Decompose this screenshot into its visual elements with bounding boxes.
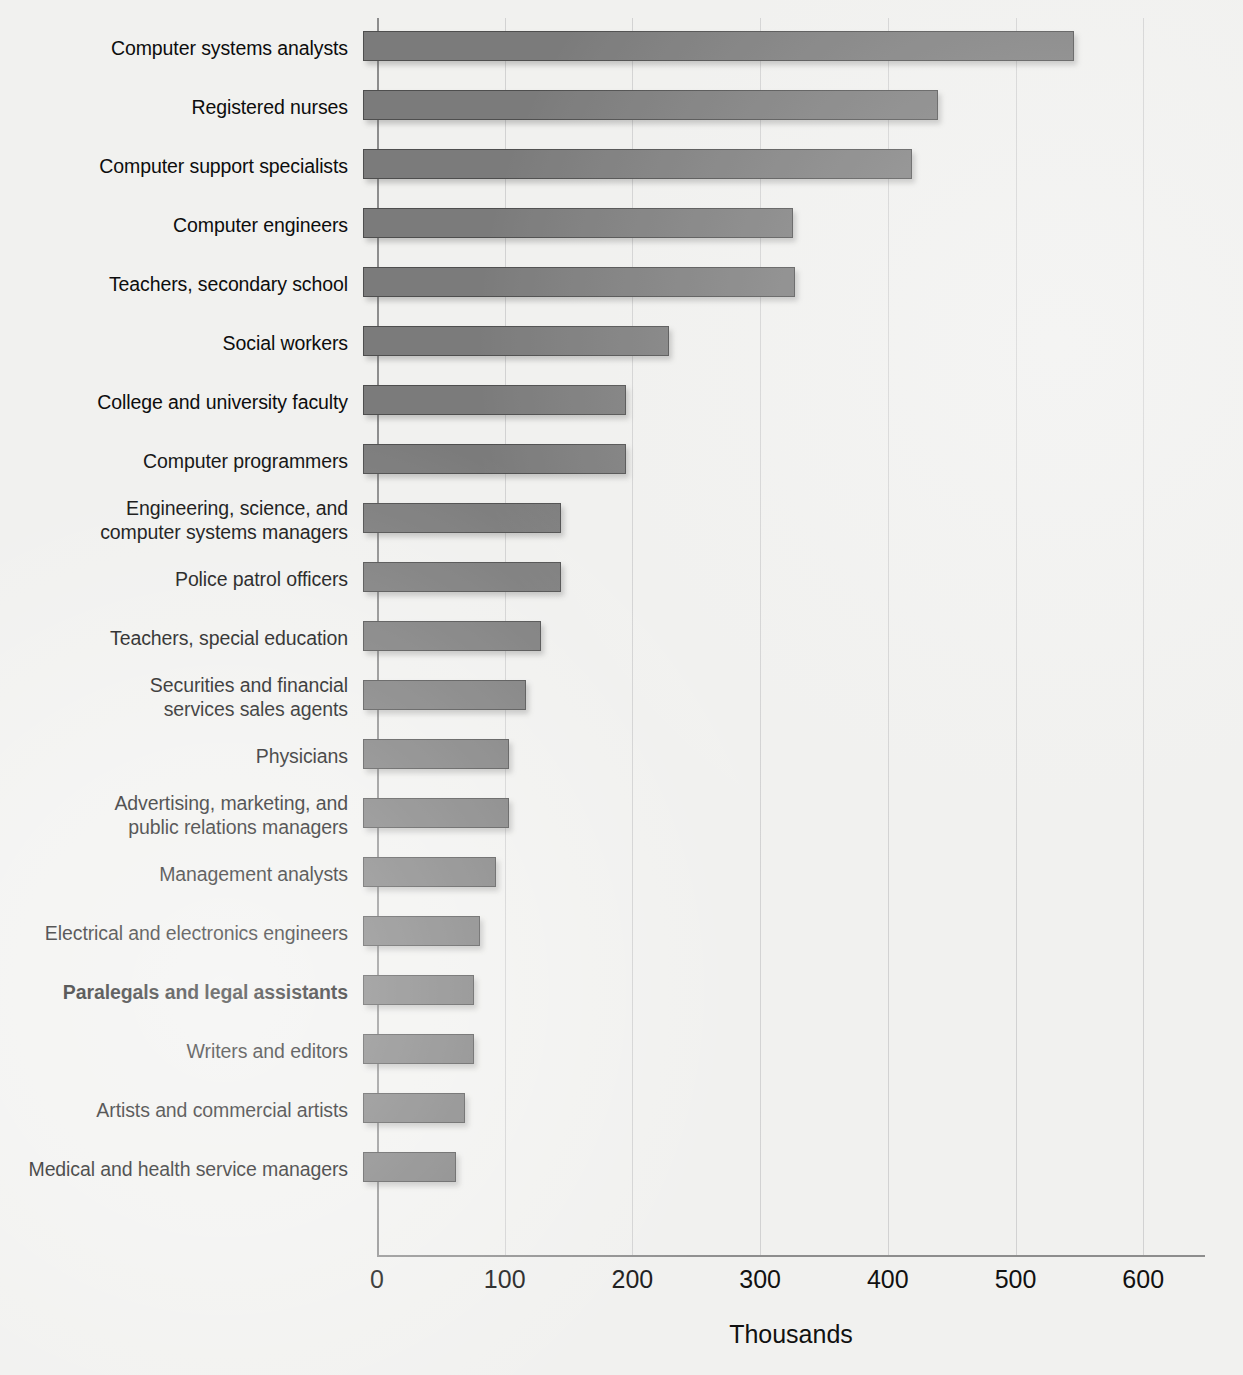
bar <box>363 1093 465 1123</box>
category-label: Computer support specialists <box>0 154 362 178</box>
category-label: Registered nurses <box>0 95 362 119</box>
bar-track <box>362 195 1243 254</box>
bar-row: Electrical and electronics engineers <box>0 903 1243 962</box>
bar <box>363 739 509 769</box>
x-tick-label: 100 <box>484 1262 526 1296</box>
bar-row: Computer programmers <box>0 431 1243 490</box>
x-tick-label: 500 <box>995 1262 1037 1296</box>
category-label: Writers and editors <box>0 1039 362 1063</box>
category-label: Teachers, secondary school <box>0 272 362 296</box>
bar-track <box>362 962 1243 1021</box>
bar-chart: Computer systems analystsRegistered nurs… <box>0 0 1243 1375</box>
bar <box>363 562 561 592</box>
bar <box>363 857 496 887</box>
x-tick-label: 200 <box>612 1262 654 1296</box>
bar-row: Computer engineers <box>0 195 1243 254</box>
bar-row: Police patrol officers <box>0 549 1243 608</box>
bar-track <box>362 608 1243 667</box>
bar <box>363 1152 456 1182</box>
bar <box>363 503 561 533</box>
bar-row: Social workers <box>0 313 1243 372</box>
bar-track <box>362 1021 1243 1080</box>
category-label: Social workers <box>0 331 362 355</box>
bar-track <box>362 313 1243 372</box>
bar-row: Medical and health service managers <box>0 1139 1243 1198</box>
category-label: Computer systems analysts <box>0 36 362 60</box>
bar <box>363 621 541 651</box>
bar <box>363 149 912 179</box>
bar-track <box>362 726 1243 785</box>
bar <box>363 916 480 946</box>
bar-row: Registered nurses <box>0 77 1243 136</box>
bar <box>363 385 626 415</box>
category-label: Engineering, science, and computer syste… <box>0 496 362 544</box>
bar <box>363 444 626 474</box>
bar-track <box>362 254 1243 313</box>
category-label: Computer engineers <box>0 213 362 237</box>
bar-track <box>362 1139 1243 1198</box>
category-label: Computer programmers <box>0 449 362 473</box>
bar-track <box>362 1080 1243 1139</box>
bar-row: Computer systems analysts <box>0 18 1243 77</box>
x-axis-title: Thousands <box>377 1320 1205 1349</box>
bar-track <box>362 549 1243 608</box>
x-axis-ticks: 0100200300400500600 <box>0 1262 1243 1302</box>
category-label: Police patrol officers <box>0 567 362 591</box>
bar <box>363 90 938 120</box>
category-label: Securities and financial services sales … <box>0 673 362 721</box>
bar-track <box>362 667 1243 726</box>
bar-row: Artists and commercial artists <box>0 1080 1243 1139</box>
bar <box>363 208 793 238</box>
bar-row: College and university faculty <box>0 372 1243 431</box>
bar <box>363 267 795 297</box>
bar-row: Physicians <box>0 726 1243 785</box>
bar-track <box>362 844 1243 903</box>
x-tick-label: 0 <box>370 1262 384 1296</box>
x-tick-label: 600 <box>1122 1262 1164 1296</box>
x-tick-label: 400 <box>867 1262 909 1296</box>
bar <box>363 680 526 710</box>
bar-track <box>362 77 1243 136</box>
bar-rows: Computer systems analystsRegistered nurs… <box>0 18 1243 1255</box>
bar-track <box>362 136 1243 195</box>
category-label: Artists and commercial artists <box>0 1098 362 1122</box>
bar-row: Engineering, science, and computer syste… <box>0 490 1243 549</box>
category-label: Paralegals and legal assistants <box>0 980 362 1004</box>
bar-track <box>362 431 1243 490</box>
bar-row: Management analysts <box>0 844 1243 903</box>
bar <box>363 1034 474 1064</box>
bar <box>363 31 1074 61</box>
category-label: Electrical and electronics engineers <box>0 921 362 945</box>
bar-track <box>362 490 1243 549</box>
category-label: Management analysts <box>0 862 362 886</box>
bar-row: Paralegals and legal assistants <box>0 962 1243 1021</box>
category-label: College and university faculty <box>0 390 362 414</box>
bar-row: Writers and editors <box>0 1021 1243 1080</box>
bar-row: Teachers, special education <box>0 608 1243 667</box>
bar-track <box>362 785 1243 844</box>
x-axis-line <box>377 1255 1205 1257</box>
category-label: Teachers, special education <box>0 626 362 650</box>
bar-track <box>362 903 1243 962</box>
bar <box>363 975 474 1005</box>
bar-row: Teachers, secondary school <box>0 254 1243 313</box>
bar-track <box>362 372 1243 431</box>
bar-row: Advertising, marketing, and public relat… <box>0 785 1243 844</box>
category-label: Advertising, marketing, and public relat… <box>0 791 362 839</box>
bar-row: Securities and financial services sales … <box>0 667 1243 726</box>
bar-track <box>362 18 1243 77</box>
bar-row: Computer support specialists <box>0 136 1243 195</box>
category-label: Physicians <box>0 744 362 768</box>
x-tick-label: 300 <box>739 1262 781 1296</box>
category-label: Medical and health service managers <box>0 1157 362 1181</box>
bar <box>363 326 669 356</box>
bar <box>363 798 509 828</box>
